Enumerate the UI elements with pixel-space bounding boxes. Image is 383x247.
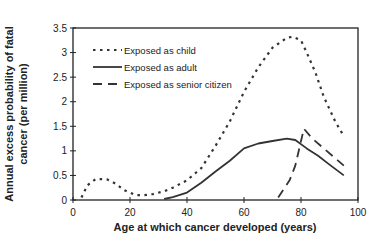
svg-text:cancer (per million): cancer (per million) <box>17 63 29 165</box>
y-tick-label: 0.5 <box>53 170 67 181</box>
x-tick-label: 20 <box>124 207 136 218</box>
y-tick-label: 2 <box>61 96 67 107</box>
series-solid <box>164 139 344 199</box>
legend-entry: Exposed as senior citizen <box>124 79 232 90</box>
x-tick-label: 100 <box>350 207 367 218</box>
series-lines <box>82 37 344 199</box>
y-tick-label: 3 <box>61 47 67 58</box>
y-tick-label: 2.5 <box>53 72 67 83</box>
y-tick-label: 3.5 <box>53 23 67 34</box>
y-axis-label: Annual excess probability of fatal cance… <box>3 26 29 201</box>
x-tick-label: 60 <box>238 207 250 218</box>
y-tick-label: 0 <box>61 195 67 206</box>
y-tick-label: 1.5 <box>53 121 67 132</box>
x-tick-label: 0 <box>70 207 76 218</box>
y-tick-label: 1 <box>61 145 67 156</box>
legend-entry: Exposed as child <box>124 45 196 56</box>
plot-frame <box>73 28 358 200</box>
legend: Exposed as childExposed as adultExposed … <box>93 45 232 90</box>
x-axis-label: Age at which cancer developed (years) <box>114 221 317 233</box>
legend-entry: Exposed as adult <box>124 62 197 73</box>
x-tick-label: 40 <box>181 207 193 218</box>
x-tick-label: 80 <box>295 207 307 218</box>
chart-canvas: Annual excess probability of fatal cance… <box>0 0 383 247</box>
svg-text:Annual excess probability of f: Annual excess probability of fatal <box>3 26 15 201</box>
